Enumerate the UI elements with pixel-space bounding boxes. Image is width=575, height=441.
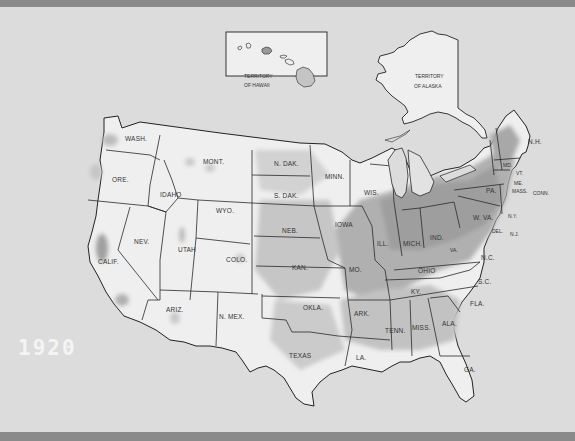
state-label-nd: N. DAK. [274, 160, 299, 167]
state-label-ar: ARK. [354, 310, 370, 317]
state-label-ca: CALIF. [98, 258, 119, 265]
state-label-ny: PA. [486, 187, 497, 194]
bottom-band [0, 432, 575, 441]
state-label-la: LA. [356, 354, 366, 361]
state-label-id: IDAHO [160, 191, 182, 198]
state-label-ut: UTAH [178, 246, 196, 253]
state-label-al: MISS. [412, 324, 431, 331]
state-label-wi: WIS. [364, 189, 379, 196]
state-label-co: COLO. [226, 256, 247, 263]
state-label-il: ILL. [377, 240, 389, 247]
state-label-ga: ALA. [442, 320, 457, 327]
state-label-ri: CONN. [533, 190, 549, 196]
state-label-ok: OKLA. [303, 304, 323, 311]
state-label-oh: IND. [430, 234, 444, 241]
alaska-label-line2: OF ALASKA [414, 83, 442, 89]
state-label-sc: FLA. [470, 300, 485, 307]
state-label-tn: KY. [411, 288, 421, 295]
state-label-wv: VA. [450, 247, 458, 253]
hawaii-label-line2: OF HAWAII [244, 82, 270, 88]
state-label-mt: MONT. [203, 158, 224, 165]
state-label-az: ARIZ. [166, 306, 184, 313]
state-label-nc: S.C. [478, 278, 491, 285]
state-label-tx: TEXAS [289, 352, 312, 359]
state-label-nj: N.Y. [508, 213, 517, 219]
state-label-md: DEL. [492, 228, 503, 234]
state-label-ma: ME. [514, 180, 523, 186]
state-label-me: N.H. [528, 138, 542, 145]
alaska-territory: TERRITORY OF ALASKA [376, 31, 487, 138]
state-label-ne: NEB. [282, 227, 298, 234]
state-label-mo: MO. [349, 266, 362, 273]
state-label-ms: TENN. [385, 327, 406, 334]
state-label-ky: OHIO [418, 267, 435, 274]
state-label-ks: KAN. [292, 264, 308, 271]
state-label-nv: NEV. [134, 238, 149, 245]
year-label: 1920 [18, 336, 77, 360]
state-label-vt: MD. [503, 162, 512, 168]
alaska-label-line1: TERRITORY [415, 73, 444, 79]
hawaii-label-line1: TERRITORY [244, 73, 273, 79]
state-label-wa: WASH. [125, 135, 147, 142]
state-label-wy: WYO. [216, 207, 234, 214]
us-population-map: TERRITORY OF HAWAII TERRITORY OF ALASKA [0, 0, 575, 441]
state-label-ct: MASS. [512, 188, 528, 194]
state-label-va: N.C. [481, 254, 495, 261]
state-label-in: MICH. [403, 240, 422, 247]
state-label-fl: GA. [464, 366, 476, 373]
state-label-nm: N. MEX. [219, 313, 245, 320]
state-label-de: N.J. [510, 231, 519, 237]
state-label-or: ORE. [112, 176, 129, 183]
state-label-nh: VT. [516, 170, 523, 176]
map-frame: TERRITORY OF HAWAII TERRITORY OF ALASKA [0, 0, 575, 441]
state-label-sd: S. DAK. [274, 192, 299, 199]
hawaii-inset: TERRITORY OF HAWAII [226, 32, 327, 88]
state-label-mn: MINN. [325, 173, 344, 180]
state-label-ia: IOWA [335, 221, 353, 228]
state-label-pa: W. VA. [473, 214, 494, 221]
